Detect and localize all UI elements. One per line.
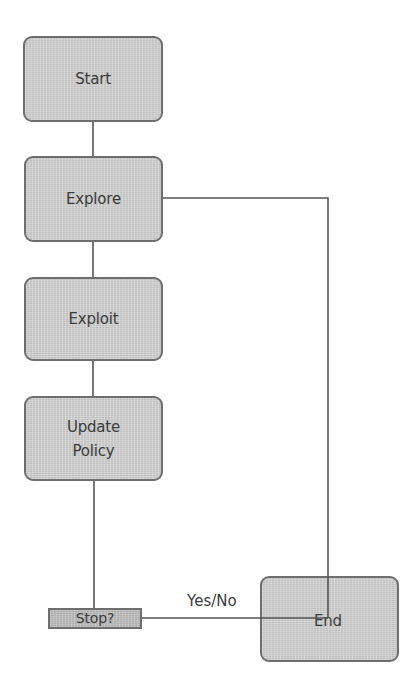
node-stop-decision: Stop? bbox=[48, 608, 142, 629]
node-end-label: End bbox=[314, 609, 342, 633]
node-end: End bbox=[260, 576, 399, 662]
edge-label-yes-no: Yes/No bbox=[187, 592, 237, 610]
node-explore-label: Explore bbox=[66, 187, 121, 211]
node-start: Start bbox=[23, 36, 163, 122]
node-exploit-label: Exploit bbox=[69, 307, 119, 331]
node-update-policy-label: Update Policy bbox=[67, 415, 120, 463]
node-start-label: Start bbox=[75, 67, 111, 91]
node-stop-label: Stop? bbox=[76, 610, 114, 627]
edge-explore-end bbox=[163, 198, 328, 618]
node-explore: Explore bbox=[24, 156, 163, 242]
node-update-policy: Update Policy bbox=[24, 396, 163, 481]
node-exploit: Exploit bbox=[24, 277, 163, 361]
flowchart-canvas: Start Explore Exploit Update Policy Stop… bbox=[0, 0, 414, 692]
